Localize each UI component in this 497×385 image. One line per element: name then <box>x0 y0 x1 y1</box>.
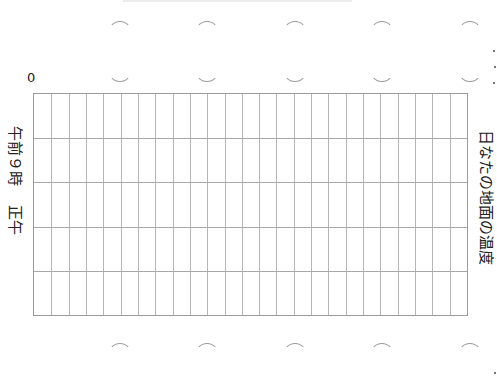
grid-column-line <box>450 94 451 315</box>
grid-column-line <box>346 94 347 315</box>
graph-grid <box>33 93 468 316</box>
grid-column-line <box>259 94 260 315</box>
grid-column-line <box>380 94 381 315</box>
grid-column-line <box>432 94 433 315</box>
binder-arc-icon <box>370 343 394 367</box>
binder-arc-icon <box>108 343 132 367</box>
grid-column-line <box>190 94 191 315</box>
grid-column-line <box>207 94 208 315</box>
grid-column-line <box>86 94 87 315</box>
binder-arc-icon <box>458 21 482 45</box>
binder-arc-icon <box>283 21 307 45</box>
x-label-noon: 正午 <box>7 205 22 235</box>
grid-column-line <box>51 94 52 315</box>
binder-arc-icon <box>283 343 307 367</box>
grid-column-line <box>138 94 139 315</box>
edge-mark <box>494 372 496 374</box>
y-origin-label: 0 <box>27 71 35 84</box>
binder-arc-icon <box>195 58 219 82</box>
grid-row-line <box>34 138 467 139</box>
grid-column-line <box>398 94 399 315</box>
binder-arc-icon <box>458 343 482 367</box>
grid-column-line <box>294 94 295 315</box>
top-bar <box>123 0 352 2</box>
grid-column-line <box>276 94 277 315</box>
binder-arc-icon <box>283 58 307 82</box>
binder-arc-icon <box>370 21 394 45</box>
grid-column-line <box>328 94 329 315</box>
grid-column-line <box>103 94 104 315</box>
edge-mark <box>493 50 495 52</box>
x-label-9am: 午前９時 <box>7 126 22 186</box>
edge-mark <box>493 82 495 84</box>
grid-row-line <box>34 271 467 272</box>
binder-arc-icon <box>195 343 219 367</box>
binder-arc-icon <box>458 58 482 82</box>
grid-row-line <box>34 182 467 183</box>
grid-column-line <box>155 94 156 315</box>
binder-arc-icon <box>108 58 132 82</box>
grid-row-line <box>34 227 467 228</box>
grid-column-line <box>225 94 226 315</box>
edge-mark <box>494 66 496 68</box>
grid-column-line <box>415 94 416 315</box>
graph-title: 日なたの地面の温度 <box>478 130 493 265</box>
binder-arc-icon <box>195 21 219 45</box>
binder-arc-icon <box>370 58 394 82</box>
grid-column-line <box>121 94 122 315</box>
grid-column-line <box>69 94 70 315</box>
grid-column-line <box>242 94 243 315</box>
grid-column-line <box>363 94 364 315</box>
grid-column-line <box>311 94 312 315</box>
binder-arc-icon <box>108 21 132 45</box>
grid-column-line <box>173 94 174 315</box>
